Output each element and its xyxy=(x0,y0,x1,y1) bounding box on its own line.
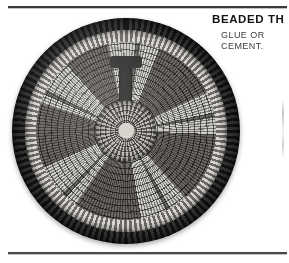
body-line-2: CEMENT. xyxy=(221,41,289,52)
trivet-bead-field xyxy=(36,42,216,221)
trivet-figure xyxy=(12,18,240,244)
top-horizontal-rule xyxy=(8,6,287,8)
scan-edge-artifact xyxy=(282,100,284,158)
article-body-copy: GLUE OR CEMENT. xyxy=(221,30,289,52)
beaded-trivet-photo xyxy=(12,18,240,244)
bottom-horizontal-rule xyxy=(8,252,287,254)
trivet-spiral-center xyxy=(95,101,156,162)
body-line-1: GLUE OR xyxy=(221,30,289,41)
trivet-t-motif-bar xyxy=(110,56,142,68)
scanned-page: BEADED TH GLUE OR CEMENT. xyxy=(0,0,289,263)
article-heading: BEADED TH xyxy=(212,13,289,26)
trivet-center-hub xyxy=(118,123,134,139)
